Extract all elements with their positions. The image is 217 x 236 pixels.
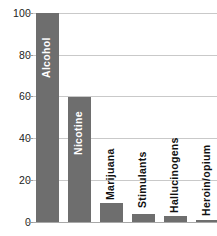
- gridline-60: [33, 96, 217, 97]
- bar-heroin-opium: [196, 220, 217, 222]
- bar-marijuana: [100, 203, 123, 222]
- bar-label-marijuana: Marijuana: [104, 148, 116, 200]
- gridline-80: [33, 55, 217, 56]
- axis-baseline: [33, 222, 217, 223]
- plot-area: Alcohol Nicotine Marijuana Stimulants Ha…: [33, 0, 217, 236]
- y-tick-mark-60: [26, 96, 33, 97]
- y-tick-mark-0: [26, 222, 33, 223]
- bar-label-alcohol: Alcohol: [40, 37, 52, 78]
- gridline-40: [33, 138, 217, 139]
- bar-label-stimulants: Stimulants: [136, 151, 148, 208]
- y-tick-mark-40: [26, 138, 33, 139]
- bar-hallucinogens: [164, 216, 187, 222]
- y-tick-mark-20: [26, 180, 33, 181]
- bar-label-nicotine: Nicotine: [72, 111, 84, 155]
- y-axis: 100 80 60 40 20 0: [0, 0, 31, 236]
- y-tick-mark-80: [26, 55, 33, 56]
- bar-label-heroin-opium: Heroin/opium: [200, 145, 212, 216]
- bar-label-hallucinogens: Hallucinogens: [168, 137, 180, 213]
- gridline-20: [33, 180, 217, 181]
- bar-stimulants: [132, 214, 155, 222]
- bar-chart: 100 80 60 40 20 0 Alcohol Nicotine Marij…: [0, 0, 217, 236]
- y-tick-mark-100: [26, 13, 33, 14]
- gridline-100: [33, 13, 217, 14]
